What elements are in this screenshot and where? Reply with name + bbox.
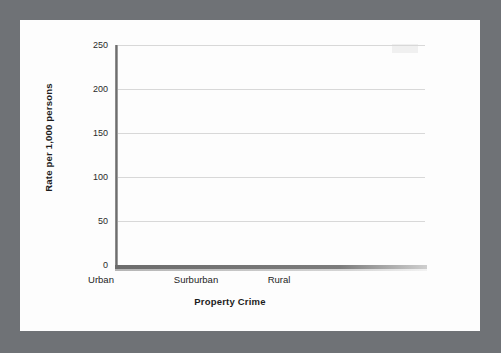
gridline-200 [118,89,425,90]
y-axis-line [115,45,118,267]
x-axis-title: Property Crime [20,296,440,307]
y-tick-label-0: 0 [64,260,108,270]
gridline-150 [118,133,425,134]
y-tick-label-50: 50 [64,216,108,226]
gridline-250 [118,45,425,46]
x-tick-label-rural: Rural [229,274,329,285]
y-tick-label-250: 250 [64,40,108,50]
y-tick-label-200: 200 [64,84,108,94]
gridline-100 [118,177,425,178]
bar-chart: Rate per 1,000 persons 250 200 150 100 5… [20,20,480,331]
figure-frame: Rate per 1,000 persons 250 200 150 100 5… [0,0,501,353]
x-axis-edge [115,269,427,271]
y-axis-title: Rate per 1,000 persons [43,58,54,218]
y-tick-label-150: 150 [64,128,108,138]
gridline-50 [118,221,425,222]
y-tick-label-100: 100 [64,172,108,182]
x-tick-label-urban: Urban [51,274,151,285]
figure-canvas: Rate per 1,000 persons 250 200 150 100 5… [20,20,480,331]
